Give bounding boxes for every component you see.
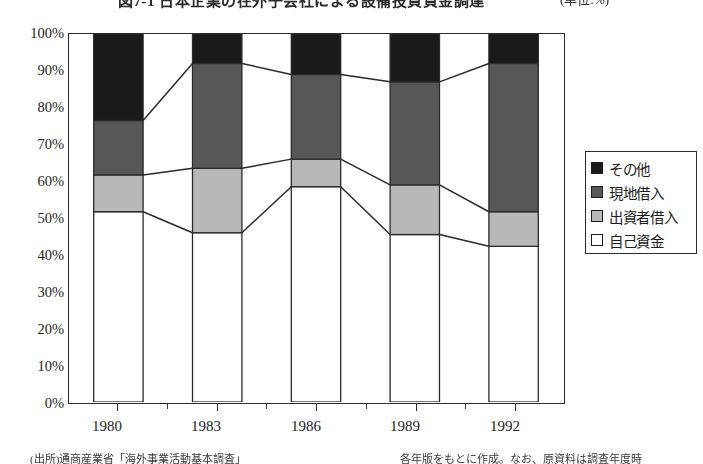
figure-title-strip: 図7-1 日本企業の在外子会社による設備投資資金調達 (単位:%): [0, 0, 703, 13]
x-tick-label: 1983: [166, 418, 246, 435]
footnote-note: 各年版をもとに作成。なお、原資料は調査年度時: [400, 452, 642, 464]
x-axis-tick: [416, 404, 417, 411]
bar-segment-parent-loans: [489, 212, 538, 247]
chart-legend: その他 現地借入 出資者借入 自己資金: [585, 151, 697, 254]
x-axis-minor-tick: [366, 404, 367, 409]
band-connector-local-loans: [440, 63, 489, 81]
bar-segment-self-funds: [193, 233, 242, 402]
band-connector-self-funds: [440, 235, 489, 247]
band-connector-parent-loans: [143, 168, 192, 175]
x-axis-tick: [316, 404, 317, 411]
x-tick-label: 1992: [465, 418, 545, 435]
plot-inner: [69, 34, 564, 403]
bar-segment-other: [390, 34, 439, 82]
figure-footnote: (出所)通商産業省「海外事業活動基本調査」 各年版をもとに作成。なお、原資料は調…: [0, 452, 703, 464]
y-tick-label: 40%: [37, 248, 64, 262]
black-square-icon: [591, 162, 603, 174]
y-axis-labels: 100% 90% 80% 70% 60% 50% 40% 30% 20% 10%…: [0, 0, 64, 462]
footnote-source: (出所)通商産業省「海外事業活動基本調査」: [30, 452, 246, 464]
bar-segment-local-loans: [390, 82, 439, 185]
band-connector-self-funds: [242, 187, 291, 233]
band-connector-local-loans: [143, 63, 192, 120]
y-tick-label: 20%: [37, 322, 64, 336]
x-axis-minor-tick: [266, 404, 267, 409]
y-tick-label: 50%: [37, 211, 64, 225]
legend-label: 現地借入: [609, 182, 664, 203]
band-connector-parent-loans: [242, 159, 291, 168]
bar-segment-local-loans: [489, 63, 538, 211]
band-connector-self-funds: [341, 187, 390, 235]
x-tick-label: 1986: [266, 418, 346, 435]
x-tick-label: 1980: [67, 418, 147, 435]
x-axis-minor-tick: [465, 404, 466, 409]
bar-segment-parent-loans: [94, 175, 143, 212]
legend-label: 出資者借入: [609, 206, 678, 227]
bar-segment-local-loans: [291, 74, 340, 159]
legend-label: 自己資金: [609, 230, 664, 251]
bar-segment-other: [291, 34, 340, 74]
bar-segment-other: [193, 34, 242, 63]
stacked-area-bar-chart: [69, 34, 563, 402]
light-gray-square-icon: [591, 210, 603, 222]
y-tick-label: 100%: [30, 26, 64, 40]
legend-item-local-loans[interactable]: 現地借入: [591, 180, 692, 204]
y-tick-label: 0%: [45, 396, 64, 410]
unit-note: (単位:%): [560, 0, 609, 8]
white-square-icon: [591, 234, 603, 246]
y-tick-label: 90%: [37, 63, 64, 77]
bar-segment-self-funds: [94, 212, 143, 402]
x-axis-tick: [217, 404, 218, 411]
bar-segment-self-funds: [291, 187, 340, 402]
bar-segment-self-funds: [390, 235, 439, 402]
bar-segment-parent-loans: [193, 168, 242, 232]
band-connector-parent-loans: [341, 159, 390, 185]
y-tick-label: 60%: [37, 174, 64, 188]
y-tick-label: 30%: [37, 285, 64, 299]
band-connector-local-loans: [242, 63, 291, 74]
band-connector-parent-loans: [440, 185, 489, 212]
x-axis-tick: [117, 404, 118, 411]
bar-segment-other: [94, 34, 143, 120]
y-tick-label: 10%: [37, 359, 64, 373]
bar-segment-other: [489, 34, 538, 63]
dark-gray-square-icon: [591, 186, 603, 198]
band-connector-local-loans: [341, 74, 390, 81]
bar-segment-parent-loans: [390, 185, 439, 235]
bar-segment-local-loans: [193, 63, 242, 168]
bar-segment-self-funds: [489, 246, 538, 402]
legend-item-self-funds[interactable]: 自己資金: [591, 228, 692, 252]
legend-item-parent-loans[interactable]: 出資者借入: [591, 204, 692, 228]
bar-segment-local-loans: [94, 120, 143, 174]
y-tick-label: 80%: [37, 100, 64, 114]
legend-label: その他: [609, 158, 650, 179]
bar-segment-parent-loans: [291, 159, 340, 187]
x-axis-tick: [515, 404, 516, 411]
legend-item-other[interactable]: その他: [591, 156, 692, 180]
x-tick-label: 1989: [365, 418, 445, 435]
band-connector-self-funds: [143, 212, 192, 233]
y-tick-label: 70%: [37, 137, 64, 151]
page-title: 図7-1 日本企業の在外子会社による設備投資資金調達: [118, 0, 485, 10]
x-axis-minor-tick: [167, 404, 168, 409]
plot-area: [68, 33, 565, 404]
